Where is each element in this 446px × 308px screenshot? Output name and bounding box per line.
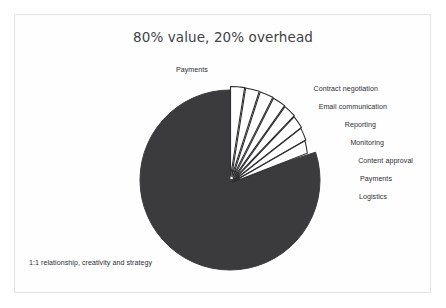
chart-screenshot: 80% value, 20% overhead Payments Contrac…	[0, 0, 446, 308]
label-main-slice: 1:1 relationship, creativity and strateg…	[29, 259, 152, 267]
label-monitoring: Monitoring	[256, 139, 384, 148]
label-content-approval: Content approval	[256, 157, 413, 166]
label-logistics: Logistics	[256, 193, 387, 202]
label-reporting: Reporting	[256, 121, 376, 130]
label-payments-top: Payments	[176, 66, 286, 75]
label-contract-negotiation: Contract negotiation	[256, 85, 378, 94]
label-email-communication: Email communication	[256, 103, 387, 112]
label-payments: Payments	[256, 175, 392, 184]
